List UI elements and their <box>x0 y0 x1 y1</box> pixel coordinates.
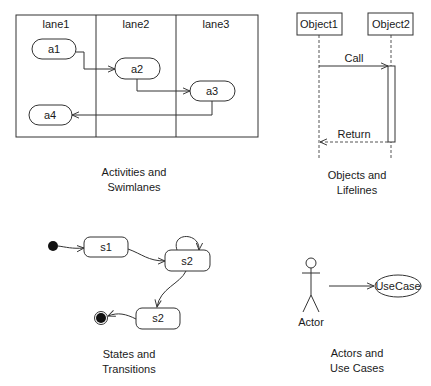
svg-text:Object2: Object2 <box>372 18 410 30</box>
object1-box: Object1 <box>297 13 342 35</box>
state-diagram: s1 s2 s2 States and Transitions <box>48 237 210 376</box>
svg-text:s1: s1 <box>100 241 112 253</box>
caption-usecases-line2: Use Cases <box>330 362 384 374</box>
caption-sequence-line2: Lifelines <box>337 184 378 196</box>
transition-s2-final <box>108 314 136 319</box>
transition-s1-s2 <box>128 249 165 261</box>
caption-sequence-line1: Objects and <box>328 169 387 181</box>
activation-bar <box>388 66 395 142</box>
state-node-s1: s1 <box>84 237 128 257</box>
svg-text:a2: a2 <box>131 63 143 75</box>
uml-diagram-canvas: lane1 lane2 lane3 a1 a2 a3 a4 Activities… <box>0 0 431 386</box>
activity-node-a3: a3 <box>190 81 235 101</box>
usecase-ellipse: UseCase <box>375 275 421 297</box>
svg-text:a1: a1 <box>48 43 60 55</box>
lane-label-3: lane3 <box>203 18 230 30</box>
actor-label: Actor <box>298 316 324 328</box>
sequence-diagram: Object1 Object2 Call Return Objects and … <box>297 13 413 196</box>
transition-s2-self-loop <box>176 237 199 251</box>
actor-stick-figure-icon <box>302 258 320 312</box>
caption-activities-line1: Activities and <box>102 166 167 178</box>
state-node-s2-bottom: s2 <box>136 308 180 329</box>
svg-text:s2: s2 <box>152 312 164 324</box>
caption-activities-line2: Swimlanes <box>107 181 161 193</box>
activity-node-a2: a2 <box>115 58 160 79</box>
svg-text:a4: a4 <box>44 109 56 121</box>
caption-states-line1: States and <box>103 348 156 360</box>
svg-text:a3: a3 <box>206 85 218 97</box>
usecase-diagram: Actor UseCase Actors and Use Cases <box>298 258 421 374</box>
activity-node-a1: a1 <box>32 39 76 59</box>
svg-text:s2: s2 <box>181 255 193 267</box>
svg-text:UseCase: UseCase <box>375 280 420 292</box>
message-return-label: Return <box>337 128 370 140</box>
transition-s2-s2b <box>157 271 186 307</box>
lane-label-2: lane2 <box>123 18 150 30</box>
initial-state-icon <box>48 241 58 251</box>
final-state-icon <box>95 312 108 325</box>
caption-states-line2: Transitions <box>102 363 156 375</box>
transition-initial-s1 <box>58 246 84 248</box>
svg-text:Object1: Object1 <box>300 18 338 30</box>
caption-usecases-line1: Actors and <box>331 347 384 359</box>
activity-diagram: lane1 lane2 lane3 a1 a2 a3 a4 Activities… <box>16 15 258 193</box>
message-call-label: Call <box>345 52 364 64</box>
object2-box: Object2 <box>368 13 413 35</box>
activity-node-a4: a4 <box>29 105 72 125</box>
lane-label-1: lane1 <box>43 18 70 30</box>
state-node-s2: s2 <box>165 250 210 271</box>
